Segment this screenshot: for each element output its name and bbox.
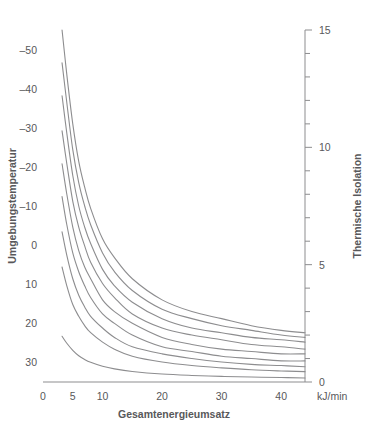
curve-ambient--30	[62, 96, 305, 342]
y-axis-left-title: Umgebungstemperatur	[6, 148, 18, 264]
y-axis-left-tick-label: –20	[19, 161, 37, 173]
y-axis-right-title: Thermische Isolation	[351, 153, 363, 258]
x-axis-tick-label: 0	[40, 390, 46, 402]
curve-ambient-0	[62, 197, 305, 361]
y-axis-left-tick-label: –40	[19, 83, 37, 95]
curve-ambient--50	[62, 30, 305, 333]
chart-container: 051015–50–40–30–20–1001020300510203040kJ…	[0, 0, 377, 427]
x-axis-tick-label: 5	[70, 390, 76, 402]
y-axis-right-tick-label: 5	[319, 259, 325, 271]
y-axis-left-tick-label: 10	[25, 278, 37, 290]
x-axis-unit-label: kJ/min	[317, 390, 347, 402]
y-axis-right-tick-label: 0	[319, 376, 325, 388]
y-axis-right-tick-label: 10	[319, 141, 331, 153]
x-axis-tick-label: 40	[275, 390, 287, 402]
y-axis-left-tick-label: 0	[31, 239, 37, 251]
curve-ambient--40	[62, 63, 305, 338]
x-axis-title: Gesamtenergieumsatz	[118, 408, 230, 420]
x-axis-tick-label: 10	[97, 390, 109, 402]
curve-ambient-10	[62, 232, 305, 367]
y-axis-right-tick-label: 15	[319, 24, 331, 36]
y-axis-left-tick-label: 20	[25, 317, 37, 329]
y-axis-left-tick-label: –50	[19, 44, 37, 56]
y-axis-left-tick-label: –10	[19, 200, 37, 212]
thermal-isolation-chart: 051015–50–40–30–20–1001020300510203040kJ…	[0, 0, 377, 427]
curve-ambient-20	[62, 267, 305, 372]
y-axis-left-tick-label: –30	[19, 122, 37, 134]
x-axis-tick-label: 20	[156, 390, 168, 402]
x-axis-tick-label: 30	[216, 390, 228, 402]
y-axis-left-tick-label: 30	[25, 356, 37, 368]
